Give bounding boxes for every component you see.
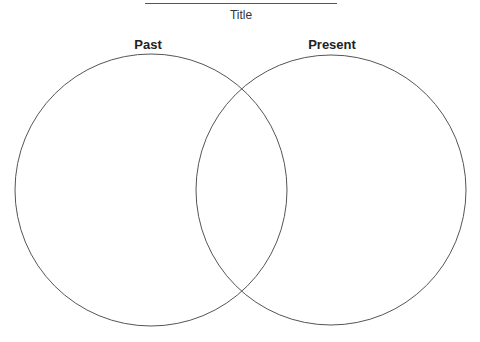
- venn-diagram: [0, 0, 480, 342]
- circle-present: [196, 55, 466, 325]
- circle-past: [15, 54, 287, 326]
